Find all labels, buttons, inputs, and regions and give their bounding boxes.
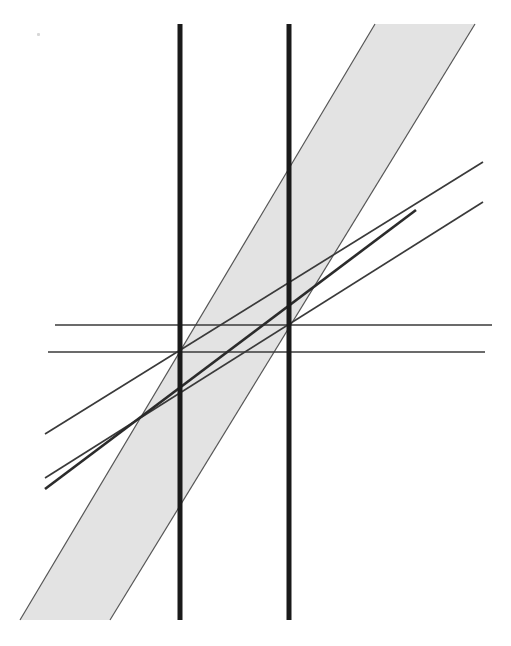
scan-speck xyxy=(37,33,40,36)
confidence-band-fill xyxy=(20,24,475,620)
steep-line-thick xyxy=(45,210,416,489)
figure-canvas xyxy=(0,0,511,646)
confidence-band-left-edge xyxy=(20,24,375,620)
figure-root xyxy=(0,0,511,646)
shallow-line-upper xyxy=(45,162,483,434)
